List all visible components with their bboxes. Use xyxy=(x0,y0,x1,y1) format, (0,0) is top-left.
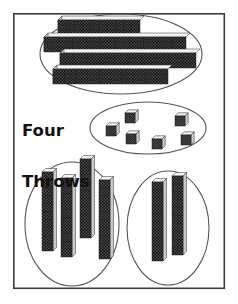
rod-block xyxy=(99,177,114,260)
four-throws-label-line1: Four xyxy=(22,122,90,139)
flat-block xyxy=(53,65,172,84)
unit-cube xyxy=(125,110,138,123)
unit-cube xyxy=(175,113,188,126)
units-group xyxy=(90,102,206,154)
flats-group xyxy=(40,14,202,94)
illustration-canvas: Four Throws xyxy=(0,0,238,304)
flat-block xyxy=(58,16,144,35)
rods-group-right xyxy=(127,171,209,285)
four-throws-label: Four Throws xyxy=(22,88,90,224)
rod-block xyxy=(152,179,167,262)
rods-group-right-ellipse xyxy=(127,171,209,285)
unit-cube xyxy=(106,123,119,136)
four-throws-label-line2: Throws xyxy=(22,173,90,190)
unit-cube xyxy=(152,136,165,149)
unit-cube xyxy=(126,131,139,144)
rod-block xyxy=(172,173,187,256)
unit-cube xyxy=(181,132,194,145)
